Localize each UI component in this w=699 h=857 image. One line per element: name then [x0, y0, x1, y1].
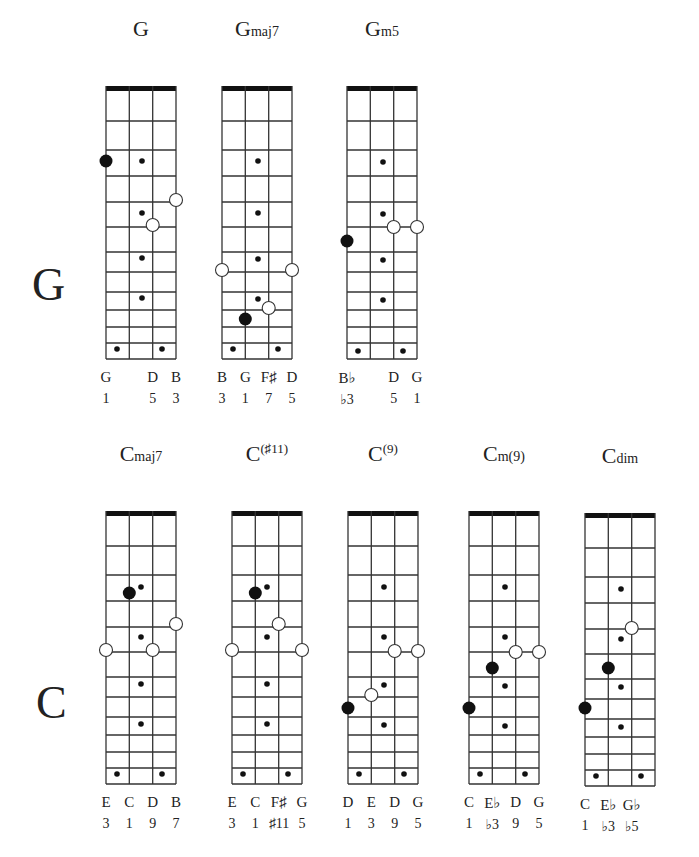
position-marker-dot: [159, 346, 165, 352]
fretboard: [94, 86, 188, 363]
position-marker-dot: [264, 721, 270, 727]
position-marker-dot: [380, 159, 386, 165]
scale-degrees-item: 1: [407, 391, 427, 407]
chord-title: Gm5: [322, 16, 442, 42]
finger-dot: [249, 587, 262, 600]
open-circle-marker: [625, 622, 638, 635]
chord-suffix: dim: [616, 451, 638, 466]
position-marker-dot: [138, 681, 144, 687]
chord-root: C: [368, 441, 383, 466]
open-circle-marker: [296, 644, 309, 657]
chord-root: G: [365, 16, 381, 41]
open-circle-marker: [216, 264, 229, 277]
position-marker-dot: [139, 158, 145, 164]
position-marker-dot: [255, 256, 261, 262]
position-marker-dot: [381, 584, 387, 590]
note-names-item: D: [506, 794, 526, 811]
scale-degrees-item: 3: [212, 391, 232, 407]
scale-degrees-item: 1: [235, 391, 255, 407]
position-marker-dot: [380, 211, 386, 217]
scale-degrees-item: 1: [575, 818, 595, 834]
position-marker-dot: [400, 348, 406, 354]
scale-degrees: 1395: [342, 816, 432, 834]
note-names-item: G: [96, 369, 116, 386]
note-names-item: E: [222, 794, 242, 811]
scale-degrees-item: ♭5: [622, 818, 642, 835]
open-circle-marker: [509, 646, 522, 659]
chord-suffix: (9): [383, 441, 398, 456]
chord-title: G: [81, 16, 201, 42]
position-marker-dot: [522, 771, 528, 777]
finger-dot: [123, 587, 136, 600]
note-names-item: E: [96, 794, 116, 811]
position-marker-dot: [381, 634, 387, 640]
note-names-item: G: [292, 794, 312, 811]
note-names: ECDB: [100, 794, 190, 812]
note-names-item: G: [408, 794, 428, 811]
open-circle-marker: [262, 302, 275, 315]
fretboard: [457, 511, 551, 788]
note-names-item: B: [212, 369, 232, 386]
chord-title: Cm(9): [444, 441, 564, 467]
position-marker-dot: [380, 257, 386, 263]
open-circle-marker: [146, 219, 159, 232]
position-marker-dot: [381, 682, 387, 688]
chord-root: G: [133, 16, 149, 41]
open-circle-marker: [411, 221, 424, 234]
chord-suffix: (♯11): [261, 441, 289, 456]
chord-root: C: [120, 441, 135, 466]
finger-dot: [579, 702, 592, 715]
note-names-item: D: [282, 369, 302, 386]
note-names-item: G: [407, 369, 427, 386]
note-names-item: E♭: [482, 794, 502, 812]
chord-suffix: m(9): [498, 449, 525, 464]
position-marker-dot: [381, 722, 387, 728]
scale-degrees-item: ♭3: [598, 818, 618, 835]
scale-degrees-item: 5: [292, 816, 312, 832]
open-circle-marker: [365, 689, 378, 702]
finger-dot: [602, 662, 615, 675]
open-circle-marker: [387, 221, 400, 234]
nut: [347, 86, 417, 91]
position-marker-dot: [380, 297, 386, 303]
note-names-item: G♭: [622, 796, 642, 814]
note-names-item: D: [143, 369, 163, 386]
position-marker-dot: [618, 724, 624, 730]
scale-degrees-item: 3: [96, 816, 116, 832]
position-marker-dot: [285, 771, 291, 777]
fretboard: [210, 86, 304, 363]
fretboard: [573, 513, 667, 790]
position-marker-dot: [138, 721, 144, 727]
note-names-item: B: [166, 369, 186, 386]
position-marker-dot: [502, 683, 508, 689]
row-label-g: G: [32, 262, 65, 308]
position-marker-dot: [502, 584, 508, 590]
finger-dot: [463, 702, 476, 715]
position-marker-dot: [255, 158, 261, 164]
finger-dot: [239, 313, 252, 326]
note-names-item: C: [459, 794, 479, 811]
scale-degrees-item: 1: [338, 816, 358, 832]
position-marker-dot: [255, 296, 261, 302]
row-label-c: C: [36, 680, 67, 726]
scale-degrees-item: 9: [143, 816, 163, 832]
note-names-item: C: [575, 796, 595, 813]
open-circle-marker: [170, 618, 183, 631]
position-marker-dot: [139, 210, 145, 216]
position-marker-dot: [502, 723, 508, 729]
chord-root: C: [602, 443, 617, 468]
chord-suffix: maj7: [134, 449, 162, 464]
note-names: CE♭DG: [463, 794, 553, 812]
position-marker-dot: [275, 346, 281, 352]
position-marker-dot: [159, 771, 165, 777]
position-marker-dot: [638, 773, 644, 779]
position-marker-dot: [355, 348, 361, 354]
chord-root: G: [235, 16, 251, 41]
scale-degrees-item: 1: [245, 816, 265, 832]
nut: [106, 511, 176, 516]
nut: [469, 511, 539, 516]
scale-degrees: 1♭3♭5: [579, 818, 669, 836]
note-names-item: C: [245, 794, 265, 811]
open-circle-marker: [100, 644, 113, 657]
scale-degrees: ♭351: [341, 391, 431, 409]
